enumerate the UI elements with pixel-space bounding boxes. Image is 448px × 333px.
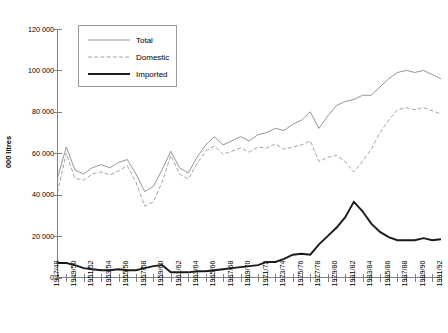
x-tick-label: 1973/74 <box>278 261 287 287</box>
y-tick-label: 80 000 <box>32 107 54 116</box>
x-tick-label: 1953/54 <box>104 261 113 287</box>
x-tick-label: 1989/90 <box>418 261 427 287</box>
legend-label-total: Total <box>136 36 153 45</box>
series-line-total <box>58 70 442 191</box>
x-tick-label: 1947/48 <box>52 261 61 287</box>
y-tick-label: 20 000 <box>32 232 54 241</box>
x-tick-label: 1957/58 <box>139 261 148 287</box>
x-tick-label: 1967/68 <box>226 261 235 287</box>
chart-container: 020 00040 00060 00080 000100 000120 000 … <box>0 0 448 333</box>
y-axis-title: 000 litres <box>4 136 13 168</box>
x-tick-label: 1975/76 <box>296 261 305 287</box>
series-lines <box>58 70 442 272</box>
series-line-domestic <box>58 108 442 206</box>
y-axis-tick-labels: 020 00040 00060 00080 000100 000120 000 <box>28 25 54 283</box>
x-tick-label: 1985/86 <box>383 261 392 287</box>
y-tick-label: 60 000 <box>32 149 54 158</box>
x-tick-label: 1963/64 <box>191 261 200 287</box>
legend-label-domestic: Domestic <box>136 53 169 62</box>
x-tick-label: 1965/66 <box>208 261 217 287</box>
x-tick-label: 1983/84 <box>365 261 374 287</box>
x-axis-tick-labels: 1947/481949/501951/521953/541955/561957/… <box>52 261 444 287</box>
chart-legend: TotalDomesticImported <box>79 26 177 87</box>
y-tick-label: 100 000 <box>28 66 54 75</box>
y-tick-label: 40 000 <box>32 190 54 199</box>
y-tick-label: 120 000 <box>28 25 54 34</box>
x-tick-label: 1951/52 <box>86 261 95 287</box>
line-chart: 020 00040 00060 00080 000100 000120 000 … <box>0 0 448 333</box>
x-tick-label: 1961/62 <box>174 261 183 287</box>
x-tick-label: 1979/80 <box>330 261 339 287</box>
x-tick-label: 1981/82 <box>348 261 357 287</box>
x-tick-label: 1969/70 <box>243 261 252 287</box>
x-tick-label: 1987/88 <box>400 261 409 287</box>
x-tick-label: 1977/78 <box>313 261 322 287</box>
x-tick-label: 1955/56 <box>121 261 130 287</box>
legend-label-imported: Imported <box>136 70 168 79</box>
x-tick-label: 1991/92 <box>435 261 444 287</box>
